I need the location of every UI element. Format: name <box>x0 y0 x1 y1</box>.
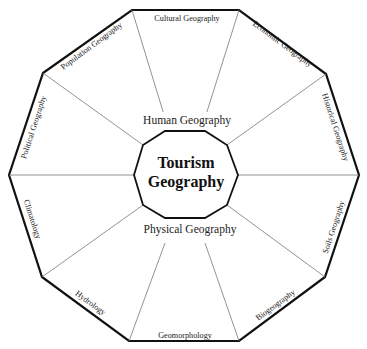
tourism-geography-diagram: Tourism Geography Human Geography Physic… <box>0 0 367 349</box>
human-geography-label: Human Geography <box>143 114 231 127</box>
cultural-geography-label: Cultural Geography <box>154 14 220 23</box>
center-title-line1: Tourism <box>157 154 215 171</box>
center-title-line2: Geography <box>148 173 224 191</box>
physical-geography-label: Physical Geography <box>144 223 237 236</box>
geomorphology-label: Geomorphology <box>158 331 213 340</box>
